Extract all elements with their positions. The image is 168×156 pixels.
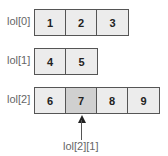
cell-2-2: 8 [97, 88, 128, 113]
row-label-2: lol[2] [7, 93, 30, 105]
cell-0-1: 2 [66, 10, 97, 35]
cell-2-1-highlighted: 7 [66, 88, 97, 113]
row-label-0: lol[0] [7, 15, 30, 27]
cell-2-0: 6 [35, 88, 66, 113]
cell-1-1: 5 [66, 49, 97, 74]
arrow-up-icon [78, 115, 86, 123]
row-0: 1 2 3 [34, 9, 129, 36]
row-1: 4 5 [34, 48, 98, 75]
cell-1-0: 4 [35, 49, 66, 74]
cell-2-3: 9 [128, 88, 159, 113]
row-2: 6 7 8 9 [34, 87, 160, 114]
cell-0-0: 1 [35, 10, 66, 35]
pointer-label: lol[2][1] [63, 140, 98, 152]
pointer-line [81, 120, 82, 140]
cell-0-2: 3 [97, 10, 128, 35]
row-label-1: lol[1] [7, 54, 30, 66]
